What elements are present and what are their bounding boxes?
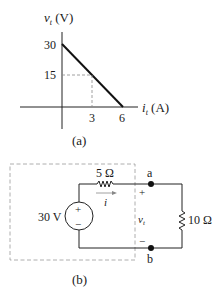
- terminal-b-label: b: [147, 252, 153, 266]
- load-resistor-label: 10 Ω: [188, 213, 212, 227]
- x-axis-label: it (A): [142, 100, 169, 117]
- caption-b: (b): [72, 272, 87, 287]
- y-axis-label: vt (V): [44, 10, 73, 27]
- terminal-a-dot: [148, 181, 154, 187]
- voltage-plus: +: [139, 186, 145, 198]
- current-arrow-icon: [112, 191, 117, 195]
- figure-canvas: vt (V) it (A) 30 15 3 6 (a) + − 30 V 5 Ω: [0, 0, 224, 301]
- caption-a: (a): [72, 133, 86, 148]
- y-tick-15: 15: [44, 68, 56, 82]
- series-resistor-label: 5 Ω: [96, 166, 114, 180]
- current-label: i: [104, 196, 107, 208]
- vi-chart: vt (V) it (A) 30 15 3 6 (a): [20, 10, 169, 148]
- source-minus: −: [75, 218, 81, 230]
- y-tick-30: 30: [44, 38, 56, 52]
- source-label: 30 V: [38, 210, 62, 224]
- x-tick-3: 3: [89, 111, 95, 125]
- x-tick-6: 6: [119, 111, 125, 125]
- voltage-minus: −: [139, 235, 145, 247]
- characteristic-line: [62, 44, 123, 107]
- resistor-5ohm: [97, 181, 113, 187]
- circuit: + − 30 V 5 Ω 10 Ω i + vt − a b (b): [10, 164, 212, 287]
- resistor-10ohm: [179, 211, 185, 230]
- voltage-label: vt: [138, 213, 146, 227]
- source-plus: +: [75, 203, 81, 215]
- terminal-a-label: a: [147, 166, 153, 180]
- terminal-b-dot: [148, 245, 154, 251]
